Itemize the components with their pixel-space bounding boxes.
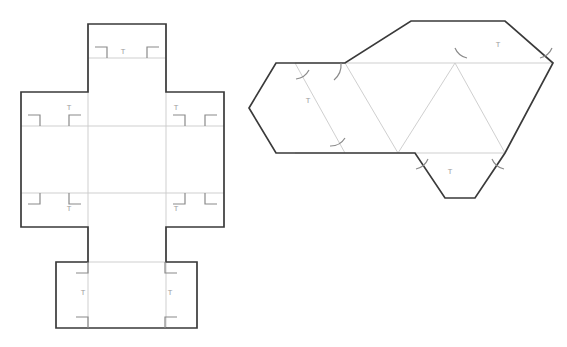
tetrahedron-net-panel-fills xyxy=(276,21,553,198)
t-mark: T xyxy=(496,40,501,49)
t-mark: T xyxy=(448,167,453,176)
t-mark: T xyxy=(306,96,311,105)
tetrahedron-net-figure: T T T xyxy=(0,0,567,347)
drawing-canvas: T T T T T T T xyxy=(0,0,567,347)
